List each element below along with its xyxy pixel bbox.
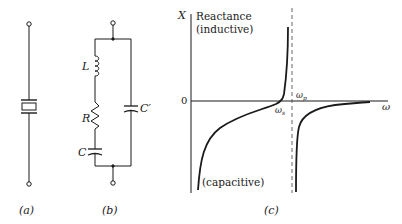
- equivalent-circuit: [88, 21, 138, 185]
- crystal-figure: (a) L R C C′ (b) X Reactance: [0, 0, 402, 224]
- resistor-R: [91, 102, 99, 129]
- label-Cprime: C′: [140, 102, 151, 115]
- terminal-bottom-a: [27, 182, 31, 186]
- zero-label: 0: [181, 95, 187, 106]
- caption-c: (c): [264, 204, 279, 217]
- x-axis-label: ω: [382, 101, 390, 112]
- graph-title-line1: Reactance: [196, 10, 252, 22]
- graph-title-line2: (inductive): [196, 23, 253, 35]
- parallel-branch-curve: [296, 102, 370, 192]
- reactance-graph: [191, 8, 388, 193]
- caption-a: (a): [19, 204, 34, 217]
- omega-p-label: ωp: [296, 90, 307, 102]
- crystal-symbol: [21, 22, 37, 186]
- terminal-top-a: [27, 22, 31, 26]
- inductor-L: [95, 56, 99, 76]
- y-axis-label: X: [177, 9, 187, 22]
- capacitive-label: (capacitive): [202, 176, 264, 188]
- omega-s-label: ωs: [275, 105, 285, 116]
- label-C: C: [78, 146, 87, 159]
- caption-b: (b): [102, 204, 118, 217]
- label-R: R: [81, 112, 90, 125]
- crystal-body: [22, 103, 36, 110]
- label-L: L: [81, 60, 89, 73]
